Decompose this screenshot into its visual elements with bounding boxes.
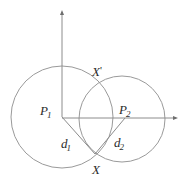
label-x-prime-mark: ' [100,64,102,76]
label-x-main: X [92,162,100,177]
geometry-diagram: P1 P2 d1 d2 X' X [0,0,188,186]
geometry-canvas [0,0,188,186]
label-x-prime-main: X [92,64,100,79]
label-p1-subscript: 1 [47,110,52,120]
label-point-p1: P1 [40,102,52,118]
label-point-x: X [92,161,100,177]
label-distance-d2: d2 [114,134,125,150]
label-d2-subscript: 2 [120,142,125,152]
label-d1-subscript: 1 [67,143,72,153]
label-p2-subscript: 2 [126,109,131,119]
label-distance-d1: d1 [61,135,72,151]
label-point-x-prime: X' [92,63,102,79]
label-point-p2: P2 [119,101,131,117]
